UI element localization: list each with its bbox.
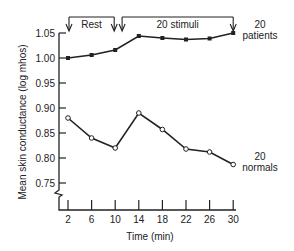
data-point [231, 31, 235, 35]
y-tick-label: 1.00 [36, 53, 56, 64]
x-tick-label: 26 [204, 214, 216, 225]
bracket-stimuli: 20 stimuli [119, 17, 236, 31]
x-tick-label: 2 [65, 214, 71, 225]
series-label: 20 [254, 151, 266, 162]
data-point [89, 136, 94, 141]
y-tick-label: 0.80 [36, 153, 56, 164]
data-point [137, 111, 142, 116]
x-tick-label: 6 [89, 214, 95, 225]
y-tick-label: 1.05 [36, 28, 56, 39]
data-point [113, 48, 117, 52]
x-tick-label: 22 [180, 214, 192, 225]
data-point [160, 127, 165, 132]
series-label: normals [242, 162, 278, 173]
bracket-label: 20 stimuli [157, 19, 199, 30]
y-axis-label: Mean skin conductance (log mhos) [17, 44, 28, 199]
data-point [231, 162, 236, 167]
data-point [208, 37, 212, 41]
series-label: patients [242, 30, 277, 41]
x-tick-label: 30 [228, 214, 240, 225]
data-point [160, 36, 164, 40]
data-point [113, 146, 118, 151]
annotations: Rest20 stimuli [66, 17, 236, 31]
data-point [90, 53, 94, 57]
x-axis-label: Time (min) [126, 231, 173, 242]
series-label: 20 [254, 19, 266, 30]
data-point [137, 34, 141, 38]
bracket-rest: Rest [66, 17, 117, 31]
y-axis-line [55, 33, 236, 210]
data-point [207, 150, 212, 155]
y-tick-label: 0.95 [36, 78, 56, 89]
y-tick-label: 0.90 [36, 103, 56, 114]
data-point [66, 56, 70, 60]
series-normals: 20normals [66, 111, 278, 173]
x-tick-label: 14 [133, 214, 145, 225]
series-group: 20patients20normals [66, 19, 278, 173]
x-tick-label: 18 [157, 214, 169, 225]
y-tick-label: 0.75 [36, 178, 56, 189]
data-point [184, 38, 188, 42]
y-tick-label: 0.85 [36, 128, 56, 139]
x-tick-label: 10 [110, 214, 122, 225]
data-point [184, 147, 189, 152]
data-point [66, 116, 71, 121]
bracket-label: Rest [81, 19, 102, 30]
chart: 1.051.000.950.900.850.800.75261014182226… [0, 0, 294, 251]
